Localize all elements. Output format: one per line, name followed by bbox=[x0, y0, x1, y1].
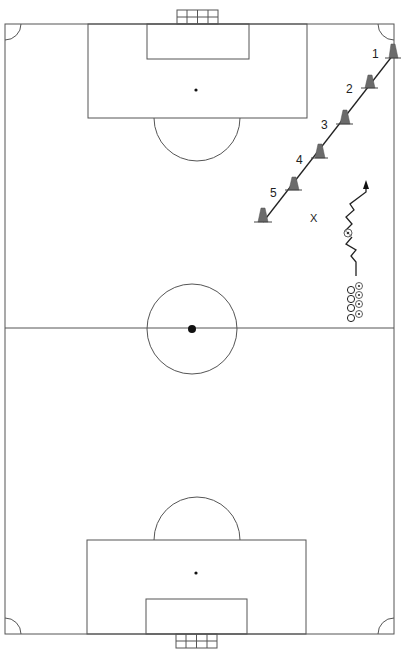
corner-arc-bottom-left bbox=[5, 618, 21, 634]
goal-area-top bbox=[147, 24, 249, 59]
cone-icon bbox=[389, 44, 398, 58]
cone-3 bbox=[336, 110, 353, 124]
penalty-area-top bbox=[88, 24, 307, 118]
penalty-arc-bottom bbox=[154, 497, 240, 540]
cone-label-3: 3 bbox=[321, 118, 328, 132]
corner-arc-bottom-right bbox=[378, 618, 394, 634]
goal-bottom bbox=[176, 634, 217, 648]
corner-arc-top-right bbox=[378, 24, 394, 40]
penalty-arc-top bbox=[154, 118, 240, 161]
soccer-field: 1 2 3 4 5 X bbox=[0, 0, 401, 653]
soccer-ball-icon bbox=[344, 229, 352, 237]
player-with-ball bbox=[347, 311, 362, 322]
penalty-area-bottom bbox=[87, 540, 306, 634]
cone-icon bbox=[315, 144, 325, 158]
cone-6 bbox=[254, 208, 272, 222]
cone-label-5: 5 bbox=[270, 186, 277, 200]
cone-4 bbox=[311, 144, 328, 158]
cone-path-line bbox=[263, 55, 393, 222]
field-boundary bbox=[5, 24, 394, 634]
cone-icon bbox=[258, 208, 268, 222]
penalty-spot-bottom bbox=[194, 571, 197, 574]
cone-label-4: 4 bbox=[296, 153, 303, 167]
goal-area-bottom bbox=[146, 599, 247, 634]
penalty-spot-top bbox=[194, 88, 197, 91]
goal-top bbox=[177, 10, 218, 24]
cone-label-1: 1 bbox=[372, 47, 379, 61]
cone-icon bbox=[365, 75, 375, 88]
arrow-head-icon bbox=[363, 180, 369, 189]
player-x: X bbox=[310, 212, 318, 224]
cone-label-2: 2 bbox=[346, 82, 353, 96]
cone-1 bbox=[385, 44, 401, 58]
corner-arc-top-left bbox=[5, 24, 21, 40]
cone-5 bbox=[285, 177, 302, 190]
cone-icon bbox=[289, 177, 299, 190]
center-spot bbox=[188, 325, 196, 333]
player-queue bbox=[347, 283, 362, 322]
dribble-path bbox=[344, 180, 369, 276]
